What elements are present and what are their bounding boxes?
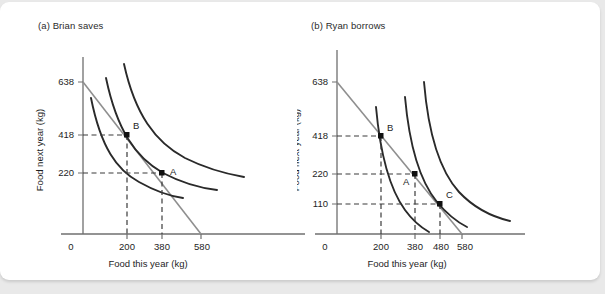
x-axis-title: Food this year (kg) [108, 258, 187, 269]
x-ticklabel-480: 480 [433, 241, 449, 252]
indifference-curve-low [376, 107, 429, 232]
panel-brian-saves: (a) Brian saves [5, 2, 305, 280]
indifference-curve-high [124, 64, 244, 177]
x-ticklabel-0: 0 [322, 241, 327, 252]
x-ticklabel-580: 580 [194, 241, 210, 252]
y-ticklabel-638: 638 [58, 76, 74, 87]
point-label-A: A [170, 166, 177, 177]
x-ticklabel-380: 380 [407, 241, 423, 252]
x-ticklabel-200: 200 [119, 241, 135, 252]
panel-ryan-borrows: (b) Ryan borrows [297, 2, 597, 280]
point-label-B: B [133, 120, 139, 131]
y-axis-title: Food next year (kg) [297, 109, 301, 191]
point-label-C: C [446, 189, 453, 200]
panel-b-plot: B A C 638 418 220 110 0 200 380 480 580 … [297, 2, 600, 280]
point-label-A: A [403, 176, 410, 187]
y-ticklabel-220: 220 [312, 168, 328, 179]
budget-line [337, 82, 462, 234]
x-ticklabel-0: 0 [68, 241, 73, 252]
point-label-B: B [387, 122, 393, 133]
y-ticklabel-110: 110 [313, 198, 328, 209]
panel-a-plot: B A 638 418 220 0 200 380 580 Food this … [5, 2, 305, 280]
data-point-C[interactable] [437, 201, 443, 207]
data-point-B[interactable] [124, 132, 130, 138]
y-ticklabel-418: 418 [312, 130, 328, 141]
data-point-A[interactable] [159, 170, 165, 176]
y-ticklabel-220: 220 [58, 167, 74, 178]
y-ticklabel-638: 638 [312, 76, 328, 87]
data-point-B[interactable] [378, 133, 384, 139]
indifference-curve-high [424, 82, 510, 221]
data-point-A[interactable] [412, 171, 418, 177]
y-ticklabel-418: 418 [58, 129, 74, 140]
x-ticklabel-380: 380 [154, 241, 170, 252]
figure-card: (a) Brian saves [0, 2, 600, 280]
indifference-curve-mid [405, 97, 467, 227]
x-axis-title: Food this year (kg) [367, 258, 446, 269]
x-ticklabel-580: 580 [457, 241, 473, 252]
x-ticklabel-200: 200 [373, 241, 389, 252]
y-axis-title: Food next year (kg) [34, 109, 45, 191]
